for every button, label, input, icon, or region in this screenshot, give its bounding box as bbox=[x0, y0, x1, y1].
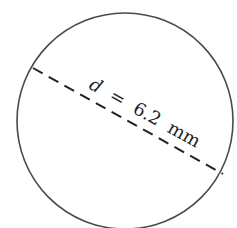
diameter-label: d = 6.2 mm bbox=[86, 73, 204, 151]
circle-outline bbox=[17, 13, 233, 228]
label-unit: mm bbox=[164, 117, 204, 152]
label-variable: d bbox=[86, 73, 106, 97]
diameter-line bbox=[33, 68, 223, 174]
circle-diagram: d = 6.2 mm bbox=[0, 0, 237, 228]
svg-text:d = 6.2 mm: d = 6.2 mm bbox=[86, 73, 204, 151]
label-equals: = bbox=[106, 84, 129, 110]
